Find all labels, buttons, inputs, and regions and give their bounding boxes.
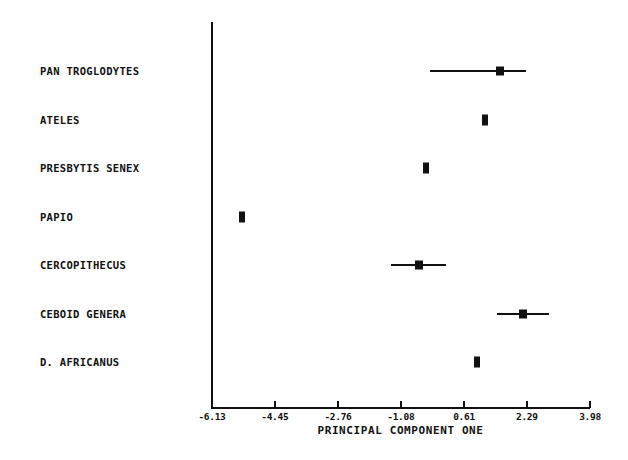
category-label: PAN TROGLODYTES xyxy=(40,65,139,77)
data-point-marker xyxy=(423,163,429,174)
data-point-marker xyxy=(482,114,488,125)
chart-figure: -6.13-4.45-2.76-1.080.612.293.98 PAN TRO… xyxy=(0,0,628,460)
x-tick xyxy=(400,401,402,408)
x-tick-label: -4.45 xyxy=(261,411,288,422)
x-tick xyxy=(463,401,465,408)
x-tick-label: 2.29 xyxy=(516,411,538,422)
x-tick xyxy=(274,401,276,408)
category-label: D. AFRICANUS xyxy=(40,356,119,368)
x-tick-label: -2.76 xyxy=(324,411,351,422)
y-axis-line xyxy=(211,22,213,408)
data-point-marker xyxy=(415,261,423,270)
category-label: CEBOID GENERA xyxy=(40,308,126,320)
category-label: ATELES xyxy=(40,114,80,126)
x-tick-label: -6.13 xyxy=(198,411,225,422)
x-tick-label: 3.98 xyxy=(579,411,601,422)
category-label: PAPIO xyxy=(40,211,73,223)
x-tick xyxy=(337,401,339,408)
x-tick xyxy=(526,401,528,408)
plot-area: -6.13-4.45-2.76-1.080.612.293.98 PAN TRO… xyxy=(0,0,628,460)
x-tick xyxy=(211,401,213,408)
category-label: PRESBYTIS SENEX xyxy=(40,162,139,174)
x-tick-label: 0.61 xyxy=(453,411,475,422)
data-point-marker xyxy=(474,357,480,368)
x-tick-label: -1.08 xyxy=(387,411,414,422)
data-point-marker xyxy=(496,67,504,76)
x-tick xyxy=(589,401,591,408)
data-point-marker xyxy=(239,211,245,222)
category-label: CERCOPITHECUS xyxy=(40,259,126,271)
x-axis-title: PRINCIPAL COMPONENT ONE xyxy=(211,424,590,437)
error-bar xyxy=(430,70,526,72)
data-point-marker xyxy=(519,309,527,318)
